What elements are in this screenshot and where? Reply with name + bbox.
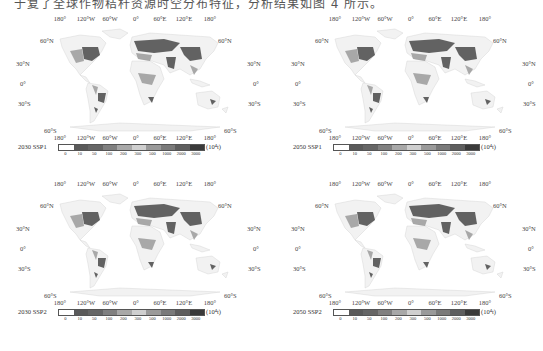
scenario-label: 2030 SSP1 [18, 143, 47, 150]
longitude-tick-label: 120°W [77, 15, 95, 22]
colorbar-unit: (10⁴t) [206, 308, 221, 315]
colorbar-tick-label: 500 [424, 151, 431, 156]
lat-label: 30°S [18, 265, 31, 272]
colorbar-tick-label: 0 [339, 151, 341, 156]
map-panel-2030-ssp2: 180°120°W60°W0°60°E120°E180° 60°N 60°N 3… [0, 180, 260, 345]
longitude-tick-label: 180° [54, 134, 66, 141]
colorbar-tick-label: 1000 [162, 316, 171, 321]
lat-label: 0° [20, 80, 26, 87]
longitude-tick-label: 180° [204, 299, 216, 306]
longitude-labels-bottom: 180°120°W60°W0°60°E120°E180° [275, 299, 535, 308]
longitude-tick-label: 60°W [377, 134, 392, 141]
world-map [40, 190, 240, 298]
colorbar-tick-label: 1000 [162, 151, 171, 156]
colorbar-segment [392, 310, 407, 315]
longitude-tick-label: 180° [479, 15, 491, 22]
colorbar-unit: (10⁴t) [481, 308, 496, 315]
lat-label: 30°S [248, 100, 261, 107]
longitude-tick-label: 120°E [451, 299, 467, 306]
colorbar-segment [146, 145, 161, 150]
colorbar-segment [363, 145, 378, 150]
lat-label: 30°N [16, 225, 30, 232]
colorbar-tick-label: 200 [395, 316, 402, 321]
world-map [40, 25, 240, 133]
colorbar-ticks: 01050100200300500100020003000 [333, 151, 478, 157]
longitude-tick-label: 60°W [102, 15, 117, 22]
longitude-tick-label: 120°W [77, 134, 95, 141]
colorbar-tick-label: 50 [367, 151, 372, 156]
longitude-tick-label: 120°E [176, 299, 192, 306]
colorbar-tick-label: 10 [353, 316, 358, 321]
colorbar-segment [421, 145, 436, 150]
longitude-tick-label: 120°E [176, 180, 192, 187]
scenario-label: 2050 SSP1 [293, 143, 322, 150]
colorbar-segment [421, 310, 436, 315]
colorbar-segment [88, 145, 103, 150]
colorbar [58, 309, 205, 316]
longitude-tick-label: 120°W [352, 15, 370, 22]
longitude-tick-label: 120°E [451, 15, 467, 22]
longitude-tick-label: 180° [204, 180, 216, 187]
colorbar-segment [392, 145, 407, 150]
colorbar-tick-label: 3000 [191, 151, 200, 156]
lat-label: 30°N [291, 60, 305, 67]
colorbar-tick-label: 50 [367, 316, 372, 321]
colorbar-segment [407, 310, 422, 315]
longitude-tick-label: 120°E [451, 180, 467, 187]
longitude-tick-label: 60°E [428, 299, 441, 306]
longitude-tick-label: 180° [329, 15, 341, 22]
longitude-labels-bottom: 180°120°W60°W0°60°E120°E180° [0, 134, 260, 143]
colorbar [333, 309, 480, 316]
longitude-tick-label: 60°W [102, 299, 117, 306]
colorbar-tick-label: 10 [78, 316, 83, 321]
colorbar-tick-label: 2000 [452, 316, 461, 321]
colorbar-segment [117, 310, 132, 315]
colorbar-segment [132, 310, 147, 315]
colorbar-segment [450, 145, 465, 150]
colorbar-segment [407, 145, 422, 150]
longitude-tick-label: 180° [204, 134, 216, 141]
longitude-tick-label: 0° [133, 134, 139, 141]
colorbar-segment [146, 310, 161, 315]
lat-label: 0° [295, 245, 301, 252]
lat-label: 30°S [18, 100, 31, 107]
colorbar-ticks: 01050100200300500100020003000 [58, 151, 203, 157]
colorbar-tick-label: 3000 [466, 151, 475, 156]
colorbar-segment [349, 145, 364, 150]
map-panel-2030-ssp1: 180°120°W60°W0°60°E120°E180° 60°N 60°N 3… [0, 15, 260, 180]
colorbar-tick-label: 100 [105, 316, 112, 321]
colorbar-unit: (10⁴t) [206, 143, 221, 150]
lat-label: 0° [295, 80, 301, 87]
longitude-tick-label: 0° [408, 299, 414, 306]
colorbar-tick-label: 100 [380, 151, 387, 156]
colorbar-tick-label: 50 [92, 316, 97, 321]
colorbar-segment [465, 145, 480, 150]
lat-label: 30°N [247, 60, 261, 67]
world-map [315, 190, 515, 298]
colorbar-segment [161, 310, 176, 315]
longitude-tick-label: 0° [408, 15, 414, 22]
longitude-tick-label: 60°W [377, 299, 392, 306]
longitude-tick-label: 60°W [102, 180, 117, 187]
colorbar-segment [436, 145, 451, 150]
longitude-tick-label: 120°W [352, 134, 370, 141]
longitude-labels-bottom: 180°120°W60°W0°60°E120°E180° [275, 134, 535, 143]
lat-label: 0° [253, 245, 259, 252]
lat-label: 30°S [523, 100, 536, 107]
colorbar-tick-label: 0 [64, 316, 66, 321]
longitude-labels-top: 180°120°W60°W0°60°E120°E180° [275, 15, 535, 24]
lat-label: 30°S [293, 265, 306, 272]
colorbar-legend: 2030 SSP1 (10⁴t) 01050100200300500100020… [18, 143, 258, 159]
longitude-tick-label: 120°W [77, 299, 95, 306]
longitude-tick-label: 0° [133, 15, 139, 22]
figure-caption-fragment: 于复了全球作物秸秆资源时空分布特征，分析结果如图 4 所示。 [14, 0, 383, 11]
longitude-labels-bottom: 180°120°W60°W0°60°E120°E180° [0, 299, 260, 308]
longitude-tick-label: 120°E [176, 15, 192, 22]
longitude-labels-top: 180°120°W60°W0°60°E120°E180° [0, 15, 260, 24]
longitude-tick-label: 180° [54, 299, 66, 306]
colorbar-tick-label: 3000 [466, 316, 475, 321]
lat-label: 30°S [523, 265, 536, 272]
colorbar-segment [161, 145, 176, 150]
colorbar-unit: (10⁴t) [481, 143, 496, 150]
lat-label: 30°N [522, 60, 536, 67]
